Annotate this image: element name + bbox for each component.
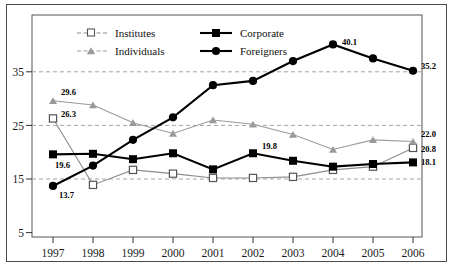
data-point-institutes-2001[interactable] xyxy=(209,174,216,181)
data-point-foreigners-2004[interactable] xyxy=(329,40,337,48)
xtick-label-2006: 2006 xyxy=(402,247,425,259)
data-point-foreigners-2001[interactable] xyxy=(209,81,217,89)
data-point-foreigners-2003[interactable] xyxy=(289,57,297,65)
data-point-institutes-1997[interactable] xyxy=(49,115,56,122)
data-point-foreigners-2002[interactable] xyxy=(249,77,257,85)
xtick-label-1998: 1998 xyxy=(82,247,105,259)
xtick-label-2003: 2003 xyxy=(282,247,305,259)
ytick-label-5: 5 xyxy=(18,227,24,239)
data-point-corporate-2001[interactable] xyxy=(209,165,217,173)
data-point-institutes-2003[interactable] xyxy=(289,173,296,180)
data-point-corporate-2003[interactable] xyxy=(289,157,297,165)
point-label-foreigners-2004: 40.1 xyxy=(342,37,357,47)
legend-marker-institutes-open-square-icon xyxy=(88,29,95,36)
data-point-institutes-2000[interactable] xyxy=(169,170,176,177)
data-point-foreigners-1997[interactable] xyxy=(49,182,57,190)
data-point-foreigners-2006[interactable] xyxy=(409,67,417,75)
point-label-individuals-2006: 22.0 xyxy=(421,129,436,139)
data-point-corporate-1997[interactable] xyxy=(49,150,57,158)
point-label-corporate-2002: 19.8 xyxy=(262,141,278,151)
point-label-corporate-2006: 18.1 xyxy=(421,157,436,167)
line-chart: 35 25 15 5 1997 1998 1999 2000 2001 2002… xyxy=(0,0,454,270)
xtick-label-2000: 2000 xyxy=(162,247,185,259)
legend-label-institutes[interactable]: Institutes xyxy=(115,27,155,39)
ytick-label-35: 35 xyxy=(13,66,25,78)
ytick-label-15: 15 xyxy=(13,173,25,185)
xtick-label-2005: 2005 xyxy=(362,247,385,259)
point-label-foreigners-1997: 13.7 xyxy=(59,190,75,200)
xtick-label-1997: 1997 xyxy=(42,247,65,259)
data-point-institutes-1998[interactable] xyxy=(89,181,96,188)
data-point-corporate-2002[interactable] xyxy=(249,149,257,157)
data-point-corporate-2006[interactable] xyxy=(409,158,417,166)
point-label-institutes-2006: 20.8 xyxy=(421,144,437,154)
legend-marker-foreigners-filled-circle-icon xyxy=(212,47,220,55)
data-point-institutes-2002[interactable] xyxy=(249,174,256,181)
x-axis-ticks xyxy=(53,237,413,243)
data-point-corporate-2005[interactable] xyxy=(369,160,377,168)
xtick-label-2002: 2002 xyxy=(242,247,265,259)
point-label-foreigners-2006: 35.2 xyxy=(421,61,436,71)
data-point-corporate-2000[interactable] xyxy=(169,149,177,157)
legend-marker-corporate-filled-square-icon xyxy=(212,29,220,37)
data-point-corporate-1998[interactable] xyxy=(89,150,97,158)
ytick-label-25: 25 xyxy=(13,120,25,132)
xtick-label-2001: 2001 xyxy=(202,247,225,259)
data-point-corporate-1999[interactable] xyxy=(129,155,137,163)
xtick-label-2004: 2004 xyxy=(322,247,345,259)
data-point-corporate-2004[interactable] xyxy=(329,163,337,171)
point-label-individuals-1997: 29.6 xyxy=(61,87,77,97)
y-axis-ticks xyxy=(26,72,32,233)
data-point-foreigners-2000[interactable] xyxy=(169,113,177,121)
point-label-institutes-1997: 26.3 xyxy=(61,109,76,119)
xtick-label-1999: 1999 xyxy=(122,247,145,259)
chart-figure: 35 25 15 5 1997 1998 1999 2000 2001 2002… xyxy=(0,0,454,270)
data-point-foreigners-2005[interactable] xyxy=(369,54,377,62)
data-point-institutes-1999[interactable] xyxy=(129,166,136,173)
data-point-foreigners-1998[interactable] xyxy=(89,162,97,170)
data-point-foreigners-1999[interactable] xyxy=(129,136,137,144)
legend-label-individuals[interactable]: Individuals xyxy=(115,45,165,57)
data-point-institutes-2006[interactable] xyxy=(409,144,416,151)
legend-label-foreigners[interactable]: Foreigners xyxy=(240,45,287,57)
legend-label-corporate[interactable]: Corporate xyxy=(240,27,284,39)
point-label-corporate-1997: 19.6 xyxy=(55,160,71,170)
